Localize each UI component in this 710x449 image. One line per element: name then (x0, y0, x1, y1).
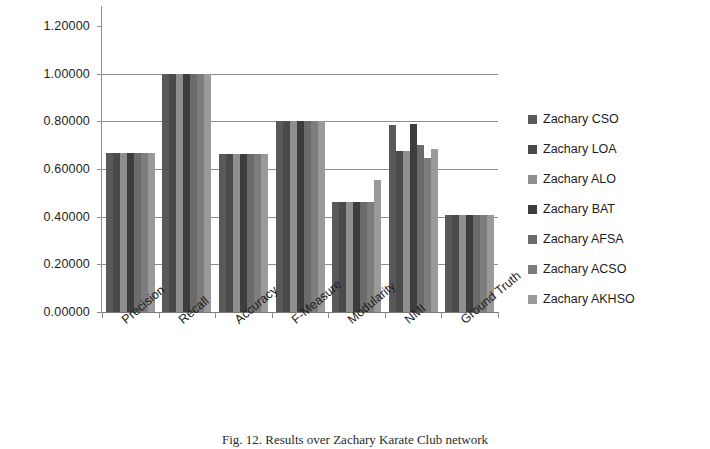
bar[interactable] (346, 202, 353, 312)
bar-group-accuracy (215, 26, 272, 312)
bar[interactable] (226, 154, 233, 312)
bar[interactable] (183, 74, 190, 312)
bar[interactable] (233, 154, 240, 312)
bar[interactable] (120, 153, 127, 312)
legend-item[interactable]: Zachary AKHSO (528, 284, 703, 314)
bar[interactable] (276, 121, 283, 312)
legend-item[interactable]: Zachary BAT (528, 194, 703, 224)
bar[interactable] (162, 74, 169, 312)
bar[interactable] (141, 153, 148, 312)
bar[interactable] (466, 215, 473, 312)
legend-label: Zachary AKHSO (543, 292, 635, 306)
bar[interactable] (106, 153, 113, 312)
legend-item[interactable]: Zachary CSO (528, 104, 703, 134)
bar-group-f-measure (272, 26, 329, 312)
legend-swatch-icon (528, 175, 537, 184)
x-axis-category-labels: PrecisionRecallAccuracyF-MeasureModulari… (102, 316, 498, 406)
bar[interactable] (254, 154, 261, 312)
legend-item[interactable]: Zachary LOA (528, 134, 703, 164)
bar[interactable] (339, 202, 346, 312)
bar[interactable] (410, 124, 417, 312)
legend-swatch-icon (528, 115, 537, 124)
bar[interactable] (452, 215, 459, 312)
bar[interactable] (424, 158, 431, 312)
legend-item[interactable]: Zachary ACSO (528, 254, 703, 284)
bar[interactable] (403, 151, 410, 312)
y-axis-tick-mark (97, 121, 102, 122)
y-axis-tick-mark (97, 74, 102, 75)
bar[interactable] (445, 215, 452, 312)
y-axis-tick-label: 1.20000 (43, 19, 90, 33)
bar[interactable] (190, 74, 197, 312)
legend-label: Zachary CSO (543, 112, 619, 126)
legend-label: Zachary LOA (543, 142, 617, 156)
y-axis-tick-mark (97, 169, 102, 170)
bar-group-nmi (385, 26, 442, 312)
bar[interactable] (353, 202, 360, 312)
bar[interactable] (459, 215, 466, 312)
bar[interactable] (297, 121, 304, 312)
chart-legend: Zachary CSOZachary LOAZachary ALOZachary… (528, 104, 703, 314)
y-axis: 1.200001.000000.800000.600000.400000.200… (18, 6, 96, 312)
bar[interactable] (318, 121, 325, 312)
y-axis-tick-label: 0.60000 (43, 162, 90, 176)
bar[interactable] (169, 74, 176, 312)
y-axis-tick-label: 0.00000 (43, 305, 90, 319)
legend-swatch-icon (528, 145, 537, 154)
y-axis-tick-mark (97, 312, 102, 313)
bar[interactable] (197, 74, 204, 312)
bar-group-modularity (328, 26, 385, 312)
legend-label: Zachary ACSO (543, 262, 626, 276)
bar[interactable] (113, 153, 120, 312)
bar[interactable] (134, 153, 141, 312)
legend-label: Zachary AFSA (543, 232, 624, 246)
bar[interactable] (176, 74, 183, 312)
legend-item[interactable]: Zachary ALO (528, 164, 703, 194)
bar[interactable] (360, 202, 367, 312)
legend-label: Zachary BAT (543, 202, 615, 216)
bar[interactable] (204, 74, 211, 312)
bar[interactable] (219, 154, 226, 312)
y-axis-tick-mark (97, 26, 102, 27)
bar-chart: 1.200001.000000.800000.600000.400000.200… (18, 6, 518, 336)
bar[interactable] (311, 121, 318, 312)
y-axis-tick-label: 1.00000 (43, 67, 90, 81)
bar[interactable] (283, 121, 290, 312)
legend-swatch-icon (528, 295, 537, 304)
figure-caption: Fig. 12. Results over Zachary Karate Clu… (0, 432, 710, 448)
plot-area (102, 26, 498, 312)
bar[interactable] (417, 145, 424, 312)
y-axis-tick-mark (97, 217, 102, 218)
legend-swatch-icon (528, 205, 537, 214)
bar-group-recall (159, 26, 216, 312)
bar-groups (102, 26, 498, 312)
figure-container: 1.200001.000000.800000.600000.400000.200… (0, 0, 710, 449)
y-axis-tick-label: 0.20000 (43, 257, 90, 271)
bar[interactable] (127, 153, 134, 312)
y-axis-tick-label: 0.40000 (43, 210, 90, 224)
bar[interactable] (290, 121, 297, 312)
bar[interactable] (247, 154, 254, 312)
bar[interactable] (304, 121, 311, 312)
bar-group-precision (102, 26, 159, 312)
legend-swatch-icon (528, 265, 537, 274)
y-axis-tick-label: 0.80000 (43, 114, 90, 128)
x-axis-tick-mark (498, 312, 499, 318)
legend-swatch-icon (528, 235, 537, 244)
bar[interactable] (240, 154, 247, 312)
bar-group-ground-truth (441, 26, 498, 312)
y-axis-tick-mark (97, 264, 102, 265)
legend-label: Zachary ALO (543, 172, 616, 186)
legend-item[interactable]: Zachary AFSA (528, 224, 703, 254)
bar[interactable] (431, 149, 438, 312)
